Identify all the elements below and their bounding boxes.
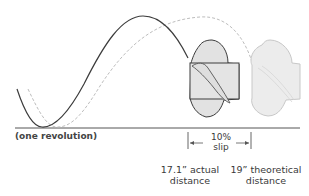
slip-word-label: slip <box>206 142 236 153</box>
theoretical-distance-line1: 19” theoretical <box>228 164 304 175</box>
actual-distance-line1: 17.1” actual <box>158 164 222 175</box>
propeller-slip-diagram: (one revolution) 10% slip 17.1” actual d… <box>0 0 309 196</box>
theoretical-distance-label: 19” theoretical distance <box>228 164 304 186</box>
left-arrow-icon <box>190 141 203 145</box>
ghost-propeller-icon <box>251 40 300 116</box>
theoretical-distance-line2: distance <box>228 175 304 186</box>
revolution-label: (one revolution) <box>15 131 97 142</box>
actual-distance-line2: distance <box>158 175 222 186</box>
propeller-icon <box>190 40 239 117</box>
actual-path-curve <box>17 16 188 127</box>
right-arrow-icon <box>236 141 249 145</box>
actual-distance-label: 17.1” actual distance <box>158 164 222 186</box>
